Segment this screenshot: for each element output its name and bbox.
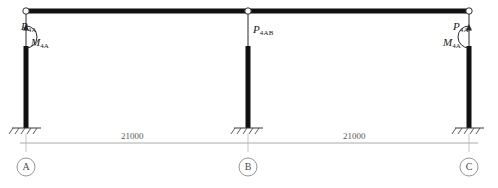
load-label-p-4a-left: P4A bbox=[21, 17, 37, 34]
load-symbol-m-left: M bbox=[31, 36, 40, 48]
support-label-a: A bbox=[17, 158, 35, 176]
load-symbol-m-right: M bbox=[443, 36, 452, 48]
load-label-m-4a-left: M4A bbox=[31, 33, 49, 50]
load-subscript-p-mid: 4AB bbox=[260, 29, 274, 37]
node-circle-a bbox=[23, 8, 29, 14]
support-b bbox=[231, 128, 263, 134]
support-a bbox=[9, 128, 41, 134]
support-c bbox=[452, 128, 484, 134]
frame-diagram: P4A M4A P4AB P4A M4A 21000 21000 A B C bbox=[0, 0, 498, 188]
load-symbol-p-left: P bbox=[21, 20, 28, 32]
dimension-label-span-bc: 21000 bbox=[340, 132, 369, 141]
load-symbol-p-right: P bbox=[453, 20, 460, 32]
load-symbol-p-mid: P bbox=[253, 23, 260, 35]
load-label-p-4a-right: P4A bbox=[453, 17, 469, 34]
support-label-c: C bbox=[460, 158, 478, 176]
load-label-p-4ab-mid: P4AB bbox=[253, 20, 274, 37]
load-subscript-m-left: 4A bbox=[40, 42, 49, 50]
load-subscript-m-right: 4A bbox=[452, 42, 461, 50]
load-label-m-4a-right: M4A bbox=[443, 33, 461, 50]
node-circle-c bbox=[466, 8, 472, 14]
node-circle-b bbox=[245, 8, 251, 14]
dimension-label-span-ab: 21000 bbox=[118, 132, 147, 141]
support-label-b: B bbox=[239, 158, 257, 176]
